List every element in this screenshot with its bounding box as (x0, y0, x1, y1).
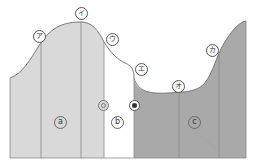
double-circle-marker (98, 100, 109, 111)
label-a-kana: ア (33, 30, 46, 43)
label-o-kana: オ (172, 80, 185, 93)
label-u-kana: ウ (106, 33, 119, 46)
label-e-kana: エ (135, 63, 148, 76)
label-ka-kana: カ (206, 44, 219, 57)
solid-dot-marker (129, 100, 140, 111)
region-c-label: c (188, 116, 201, 129)
region-a-fill (10, 22, 104, 158)
region-c-fill (134, 21, 246, 158)
region-b-label: b (111, 116, 124, 129)
region-a-label: a (54, 116, 67, 129)
label-i-kana: イ (75, 7, 88, 20)
area-diagram (0, 0, 255, 166)
